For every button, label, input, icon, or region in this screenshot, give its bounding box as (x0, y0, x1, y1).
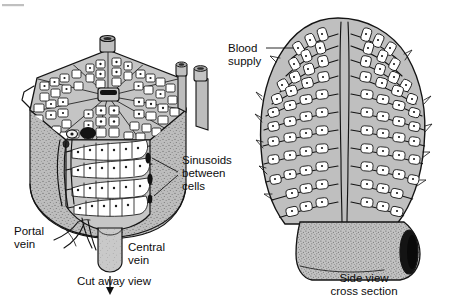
figure-canvas: Cut away view (0, 0, 468, 306)
central-vein-stump (98, 228, 122, 272)
central-vein-line2: vein (128, 254, 149, 266)
sinusoids-line1: Sinusoids (182, 154, 232, 166)
scan-artifact (2, 4, 24, 6)
central-vein-line1: Central (128, 241, 165, 253)
cut-away-view-caption: Cut away view (77, 275, 152, 287)
blood-supply-line2: supply (228, 55, 261, 67)
portal-vessel-stub-right (176, 62, 187, 112)
central-vein-opening (98, 88, 119, 101)
portal-vessel-stub-far-right (194, 66, 208, 130)
side-view-caption-line2: cross section (330, 285, 397, 297)
portal-vein-line2: vein (14, 238, 35, 250)
blood-supply-line1: Blood (228, 42, 257, 54)
sinusoids-line3: cells (182, 180, 205, 192)
sinusoids-line2: between (182, 167, 225, 179)
portal-vessel-stub-top (100, 36, 115, 53)
portal-vein-line1: Portal (14, 225, 44, 237)
side-view-caption-line1: Side view (339, 272, 389, 284)
liver-lobule-figure: Cut away view (0, 0, 468, 306)
